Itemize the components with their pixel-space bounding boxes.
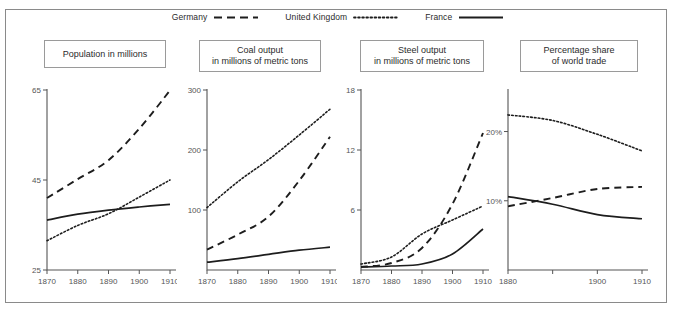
panel-title-coal-output: Coal output in millions of metric tons [199,40,321,72]
svg-text:1890: 1890 [100,277,118,286]
svg-text:10%: 10% [486,197,502,206]
series-united-kingdom [207,109,330,207]
legend-entry-germany: Germany [172,12,260,22]
panel-world-trade-plot: 10%20%188019001910 [480,84,660,294]
legend-entry-france: France [425,12,504,22]
svg-text:1900: 1900 [588,277,606,286]
series-france [207,247,330,262]
svg-text:1910: 1910 [633,277,651,286]
svg-text:1890: 1890 [260,277,278,286]
legend-swatch-dashed-icon [213,14,259,21]
svg-text:1870: 1870 [352,277,370,286]
panel-steel-output-plot: 6121818701880189019001910 [333,84,498,294]
panel-coal-output: 10020030018701880189019001910 [172,84,337,294]
svg-text:25: 25 [32,266,41,275]
panel-title-world-trade: Percentage share of world trade [520,40,638,72]
legend-label-germany: Germany [172,12,208,22]
panel-population: 25456518701880189019001910 [12,84,177,294]
series-germany [508,187,642,206]
svg-text:65: 65 [32,86,41,95]
svg-text:200: 200 [188,146,202,155]
panel-steel-output: 6121818701880189019001910 [333,84,498,294]
panel-title-coal-output-text: Coal output in millions of metric tons [212,45,308,67]
svg-text:1900: 1900 [444,277,462,286]
legend-swatch-dotted-icon [353,14,399,21]
historical-statistics-figure: Germany United Kingdom France Population… [0,0,676,314]
svg-text:20%: 20% [486,128,502,137]
panel-coal-output-plot: 10020030018701880189019001910 [172,84,337,294]
svg-text:1870: 1870 [38,277,56,286]
series-germany [207,137,330,250]
series-germany [47,90,170,198]
svg-text:100: 100 [188,206,202,215]
legend-label-france: France [425,12,452,22]
svg-text:1880: 1880 [229,277,247,286]
panel-title-steel-output: Steel output in millions of metric tons [360,40,484,72]
svg-text:18: 18 [346,86,355,95]
panel-title-population-text: Population in millions [63,49,148,60]
figure-legend: Germany United Kingdom France [0,12,676,22]
panel-title-steel-output-text: Steel output in millions of metric tons [374,45,470,67]
svg-text:300: 300 [188,86,202,95]
svg-text:1880: 1880 [383,277,401,286]
panel-title-population: Population in millions [44,40,166,68]
svg-text:1890: 1890 [413,277,431,286]
panel-population-plot: 25456518701880189019001910 [12,84,177,294]
series-france [508,197,642,219]
series-united-kingdom [508,115,642,151]
svg-text:1880: 1880 [69,277,87,286]
svg-text:1900: 1900 [130,277,148,286]
legend-entry-united-kingdom: United Kingdom [285,12,399,22]
svg-text:45: 45 [32,176,41,185]
svg-text:12: 12 [346,146,355,155]
svg-text:6: 6 [351,206,356,215]
series-united-kingdom [361,206,483,264]
svg-text:1870: 1870 [198,277,216,286]
svg-text:1880: 1880 [499,277,517,286]
legend-swatch-solid-icon [458,14,504,21]
svg-text:1900: 1900 [290,277,308,286]
series-france [47,204,170,220]
panel-title-world-trade-text: Percentage share of world trade [543,45,614,67]
panel-world-trade: 10%20%188019001910 [480,84,660,294]
series-germany [361,133,483,267]
legend-label-united-kingdom: United Kingdom [285,12,347,22]
